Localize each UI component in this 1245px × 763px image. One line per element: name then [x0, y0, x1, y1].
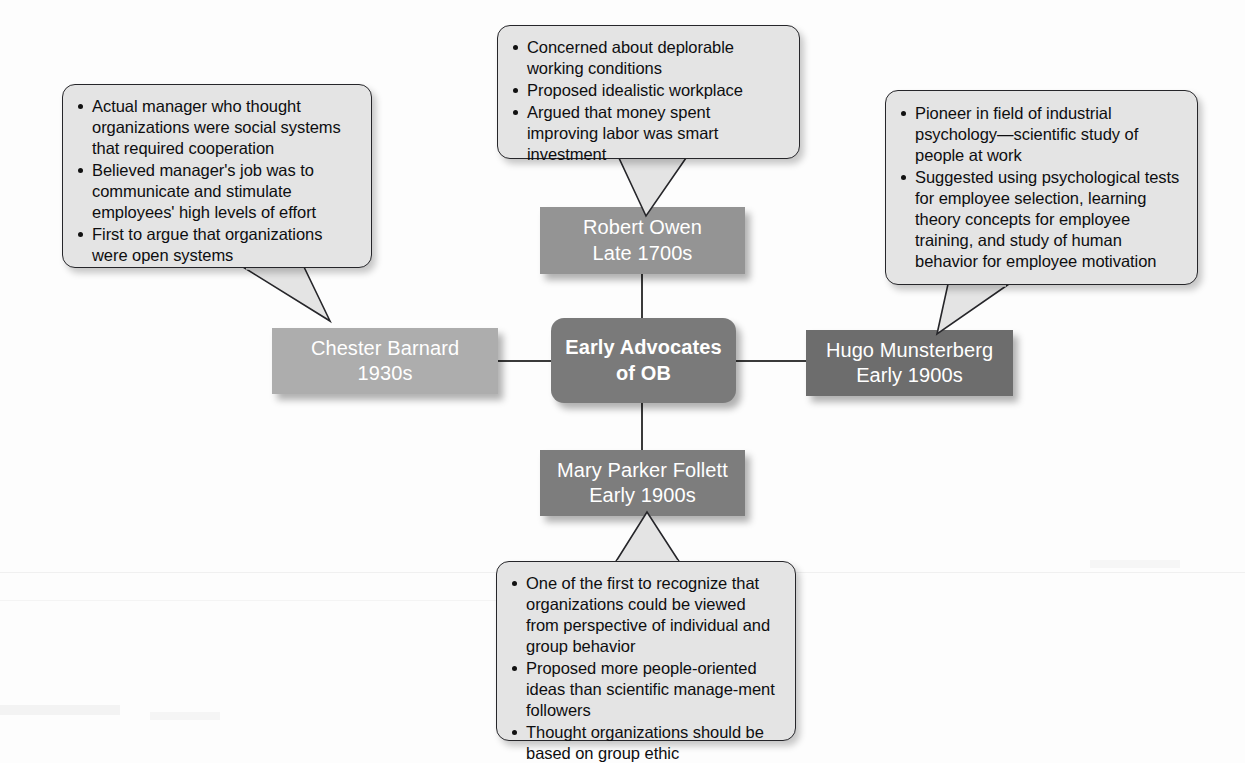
callout-bullet: Actual manager who thought organizations… — [77, 96, 357, 159]
callout-robert-owen-list: Concerned about deplorable working condi… — [512, 37, 783, 165]
callout-bullet: Believed manager's job was to communicat… — [77, 160, 357, 223]
callout-bullet: Concerned about deplorable working condi… — [512, 37, 783, 79]
callout-mary-parker-follett-list: One of the first to recognize that organ… — [511, 573, 781, 763]
callout-mary-parker-follett: One of the first to recognize that organ… — [496, 561, 796, 741]
callout-bullet: Pioneer in field of industrial psycholog… — [900, 103, 1182, 166]
diagram-canvas: Robert Owen Late 1700s Chester Barnard 1… — [0, 0, 1245, 763]
callout-chester-barnard: Actual manager who thought organizations… — [62, 84, 372, 268]
callout-bullet: Argued that money spent improving labor … — [512, 102, 783, 165]
callout-bullet: Proposed more people-oriented ideas than… — [511, 658, 781, 721]
callout-hugo-munsterberg-list: Pioneer in field of industrial psycholog… — [900, 103, 1182, 272]
callout-bullet: Proposed idealistic workplace — [512, 80, 783, 101]
callout-robert-owen: Concerned about deplorable working condi… — [497, 25, 800, 159]
callout-hugo-munsterberg: Pioneer in field of industrial psycholog… — [885, 90, 1198, 285]
callout-bullet: First to argue that organizations were o… — [77, 224, 357, 266]
callout-bullet: Suggested using psychological tests for … — [900, 167, 1182, 272]
callout-bullet: Thought organizations should be based on… — [511, 722, 781, 763]
callout-chester-barnard-list: Actual manager who thought organizations… — [77, 96, 357, 266]
callout-bullet: One of the first to recognize that organ… — [511, 573, 781, 657]
